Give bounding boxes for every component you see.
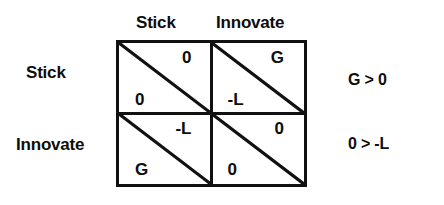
payoff-row-player: 0 xyxy=(228,161,237,178)
figure-canvas: Stick Innovate Stick Innovate 0 0 G -L -… xyxy=(0,0,444,205)
column-header-stick: Stick xyxy=(136,14,176,31)
matrix-cell-innovate-innovate: 0 0 xyxy=(212,114,305,185)
payoff-column-player: -L xyxy=(175,120,191,137)
cell-diagonal-icon xyxy=(119,114,212,185)
column-header-innovate: Innovate xyxy=(216,14,284,31)
row-label-stick: Stick xyxy=(26,64,66,81)
cell-diagonal-icon xyxy=(212,114,305,185)
condition-zero-greater-than-minus-l: 0 > -L xyxy=(348,136,389,152)
payoff-row-player: 0 xyxy=(135,91,144,108)
payoff-column-player: 0 xyxy=(275,120,284,137)
payoff-row-player: -L xyxy=(228,91,244,108)
payoff-column-player: G xyxy=(271,49,284,66)
row-label-innovate: Innovate xyxy=(16,136,84,153)
cell-diagonal-icon xyxy=(212,43,305,114)
matrix-cell-stick-stick: 0 0 xyxy=(119,43,212,114)
condition-g-greater-than-zero: G > 0 xyxy=(348,72,387,88)
matrix-cell-stick-innovate: G -L xyxy=(212,43,305,114)
payoff-column-player: 0 xyxy=(182,49,191,66)
cell-diagonal-icon xyxy=(119,43,212,114)
payoff-row-player: G xyxy=(135,161,148,178)
matrix-horizontal-divider xyxy=(119,112,304,115)
payoff-matrix-grid: 0 0 G -L -L G 0 0 xyxy=(116,40,307,187)
matrix-cell-innovate-stick: -L G xyxy=(119,114,212,185)
